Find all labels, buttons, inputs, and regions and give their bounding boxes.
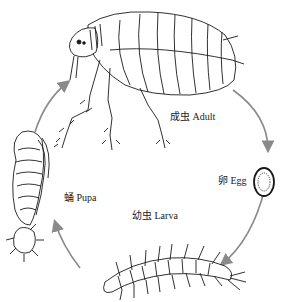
arrow-pupa-to-adult (35, 82, 68, 132)
arrow-larva-to-pupa (55, 222, 80, 268)
stage-label-egg: 卵 Egg (218, 175, 247, 187)
egg-illustration (254, 168, 274, 196)
flea-life-cycle-diagram: 成虫 Adult 卵 Egg 幼虫 Larva 蛹 Pupa (0, 0, 287, 302)
arrow-egg-to-larva (222, 188, 265, 264)
stage-label-pupa: 蛹 Pupa (64, 192, 97, 204)
diagram-canvas (0, 0, 287, 302)
stage-label-adult: 成虫 Adult (170, 111, 215, 123)
larva-illustration (104, 244, 246, 300)
adult-flea-illustration (54, 12, 244, 150)
stage-label-larva: 幼虫 Larva (132, 210, 178, 222)
arrow-adult-to-egg (233, 90, 268, 150)
pupa-illustration (6, 131, 49, 262)
